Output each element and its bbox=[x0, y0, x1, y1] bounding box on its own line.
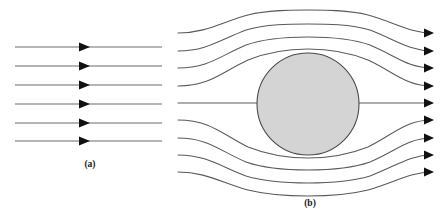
flow-arrow-right-icon-5 bbox=[79, 119, 90, 128]
flow-arrow-left-icon-6 bbox=[424, 116, 434, 125]
flow-arrow-left-icon-1 bbox=[424, 29, 434, 38]
panel-a-caption: (a) bbox=[84, 159, 95, 170]
sphere bbox=[257, 53, 359, 155]
flow-arrow-right-icon-3 bbox=[79, 81, 90, 90]
flow-arrow-left-icon-4 bbox=[424, 82, 434, 91]
flow-arrow-left-icon-7 bbox=[424, 134, 434, 143]
panel-b-arrowheads bbox=[424, 29, 434, 177]
flow-arrow-right-icon-1 bbox=[79, 43, 90, 52]
panel-b-group: (b) bbox=[178, 10, 434, 209]
flow-arrow-left-icon-5 bbox=[424, 99, 434, 108]
flow-arrow-left-icon-9 bbox=[424, 168, 434, 177]
flow-arrow-left-icon-2 bbox=[424, 47, 434, 56]
panel-a-streamlines bbox=[15, 47, 162, 141]
streamline-b-upper-1 bbox=[178, 10, 432, 33]
flow-arrow-right-icon-2 bbox=[79, 62, 90, 71]
streamline-figure: (a) bbox=[0, 0, 448, 213]
flow-arrow-right-icon-6 bbox=[79, 137, 90, 146]
flow-arrow-left-icon-3 bbox=[424, 64, 434, 73]
flow-arrow-left-icon-8 bbox=[424, 151, 434, 160]
flow-arrow-right-icon-4 bbox=[79, 100, 90, 109]
panel-b-caption: (b) bbox=[304, 198, 316, 209]
figure-container: (a) bbox=[0, 0, 448, 213]
streamline-b-lower-4 bbox=[178, 172, 432, 196]
panel-a-group: (a) bbox=[15, 43, 162, 171]
panel-a-arrowheads bbox=[79, 43, 90, 146]
